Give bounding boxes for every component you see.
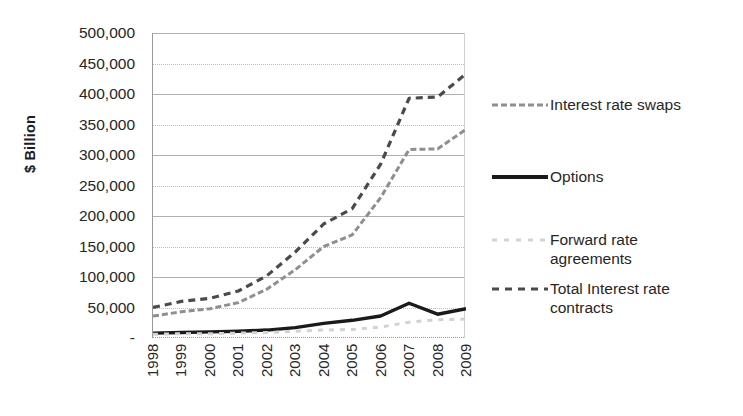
y-axis-tick-label: 50,000 [88, 299, 135, 317]
x-axis-tick-label: 2005 [343, 321, 360, 377]
x-axis-tick-label: 1999 [172, 321, 189, 377]
x-axis-tick-label: 2000 [201, 321, 218, 377]
legend-item[interactable]: Interest rate swaps [492, 96, 681, 115]
x-axis-tick-label: 2006 [372, 321, 389, 377]
legend-label: Options [550, 168, 603, 187]
x-axis-tick-label: 2004 [315, 321, 332, 377]
y-axis-tick-label: 500,000 [79, 24, 135, 42]
legend-label: Forward rate agreements [550, 231, 638, 268]
x-axis-tick-labels: 1998199920002001200220032004200520062007… [152, 341, 465, 401]
y-axis-tick-label: 300,000 [79, 146, 135, 164]
plot-area [152, 33, 465, 338]
x-axis-tick-label: 2001 [229, 321, 246, 377]
x-axis-tick-label: 1998 [144, 321, 161, 377]
legend-label: Interest rate swaps [550, 96, 681, 115]
series-lines [153, 33, 466, 338]
x-axis-tick-label: 2003 [286, 321, 303, 377]
y-axis-tick-label: 250,000 [79, 177, 135, 195]
x-axis-tick-label: 2008 [429, 321, 446, 377]
legend-swatch [492, 280, 548, 298]
legend-swatch [492, 96, 548, 114]
legend-swatch [492, 231, 548, 249]
y-axis-tick-label: 400,000 [79, 85, 135, 103]
series-line [153, 74, 466, 308]
legend-item[interactable]: Forward rate agreements [492, 231, 638, 268]
y-axis-tick-label: 350,000 [79, 116, 135, 134]
x-axis-tick-label: 2007 [400, 321, 417, 377]
legend-swatch [492, 168, 548, 186]
series-line [153, 303, 466, 333]
y-axis-tick-labels: 500,000450,000400,000350,000300,000250,0… [40, 33, 143, 338]
x-axis-tick-label: 2002 [258, 321, 275, 377]
y-axis-tick-label: - [130, 329, 135, 347]
legend-item[interactable]: Total Interest rate contracts [492, 280, 670, 317]
legend-item[interactable]: Options [492, 168, 603, 187]
y-axis-tick-label: 100,000 [79, 268, 135, 286]
line-chart: $ Billion 500,000450,000400,000350,00030… [0, 0, 743, 416]
y-axis-tick-label: 150,000 [79, 238, 135, 256]
y-axis-tick-label: 200,000 [79, 207, 135, 225]
legend-label: Total Interest rate contracts [550, 280, 670, 317]
series-line [153, 129, 466, 316]
y-axis-tick-label: 450,000 [79, 55, 135, 73]
x-axis-tick-label: 2009 [457, 321, 474, 377]
